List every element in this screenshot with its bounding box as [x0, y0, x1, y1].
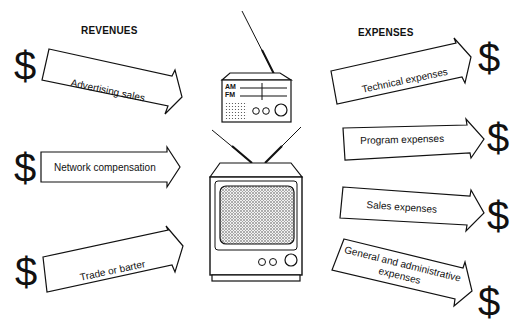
dollar-icon: $	[15, 252, 37, 292]
dollar-icon: $	[487, 118, 509, 158]
revenues-heading: REVENUES	[81, 25, 138, 36]
arrow-technical-expenses	[331, 38, 471, 104]
radio-am-label: AM	[225, 83, 236, 90]
label-network-compensation: Network compensation	[54, 162, 156, 173]
arrow-trade-or-barter	[43, 226, 183, 292]
dollar-icon: $	[478, 282, 500, 322]
label-program-expenses: Program expenses	[360, 133, 444, 146]
dollar-icon: $	[14, 148, 36, 188]
expenses-heading: EXPENSES	[358, 27, 414, 38]
dollar-icon: $	[487, 196, 509, 236]
radio-illustration	[222, 11, 291, 122]
dollar-icon: $	[478, 38, 500, 78]
radio-fm-label: FM	[225, 91, 235, 98]
tv-illustration	[210, 127, 302, 281]
dollar-icon: $	[14, 46, 36, 86]
arrow-advertising-sales	[42, 49, 182, 114]
